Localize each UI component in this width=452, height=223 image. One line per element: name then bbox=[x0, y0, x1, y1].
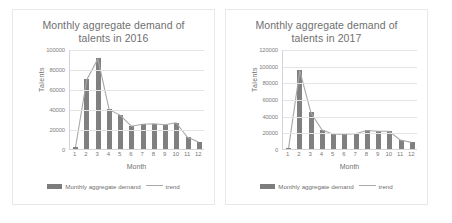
x-tick-label: 9 bbox=[376, 151, 379, 157]
x-tick-label: 3 bbox=[308, 151, 311, 157]
gridline bbox=[70, 110, 204, 111]
legend-bar-label: Monthly aggregate demand bbox=[65, 183, 140, 190]
chart-title-2017: Monthly aggregate demand of talents in 2… bbox=[226, 10, 427, 45]
x-tick-label: 8 bbox=[152, 151, 155, 157]
x-tick-label: 6 bbox=[342, 151, 345, 157]
trend-polyline bbox=[289, 71, 412, 149]
x-tick-label: 12 bbox=[408, 151, 415, 157]
legend-item-line: trend bbox=[146, 183, 180, 190]
y-tick-label: 0 bbox=[275, 147, 278, 153]
plot-canvas bbox=[69, 50, 204, 150]
gridline bbox=[70, 90, 204, 91]
trend-line-series bbox=[70, 50, 204, 149]
chart-panel-2016[interactable]: Monthly aggregate demand of talents in 2… bbox=[12, 9, 215, 205]
x-tick-label: 1 bbox=[286, 151, 289, 157]
x-tick-label: 1 bbox=[73, 151, 76, 157]
chart-sheet: Monthly aggregate demand of talents in 2… bbox=[0, 0, 452, 223]
gridline bbox=[283, 117, 417, 118]
y-tick-label: 80000 bbox=[49, 67, 65, 73]
chart-title-line2: talents in 2016 bbox=[13, 32, 214, 45]
x-axis-label: Month bbox=[69, 163, 204, 170]
chart-title-line1: Monthly aggregate demand of bbox=[13, 19, 214, 32]
x-axis-label: Month bbox=[282, 163, 417, 170]
x-tick-label: 3 bbox=[95, 151, 98, 157]
chart-title-2016: Monthly aggregate demand of talents in 2… bbox=[13, 10, 214, 45]
y-tick-label: 100000 bbox=[259, 64, 278, 70]
y-tick-label: 80000 bbox=[262, 80, 278, 86]
legend-item-bar: Monthly aggregate demand bbox=[47, 183, 140, 190]
plot-area-2016: Talents 020000400006000080000100000 1234… bbox=[13, 50, 216, 156]
legend-line-label: trend bbox=[379, 183, 393, 190]
chart-title-line2: talents in 2017 bbox=[226, 32, 427, 45]
y-axis-ticks: 020000400006000080000100000120000 bbox=[238, 50, 280, 150]
trend-polyline bbox=[76, 59, 199, 147]
y-tick-label: 20000 bbox=[262, 130, 278, 136]
gridline bbox=[283, 100, 417, 101]
chart-title-line1: Monthly aggregate demand of bbox=[226, 19, 427, 32]
x-tick-label: 5 bbox=[118, 151, 121, 157]
gridline bbox=[70, 70, 204, 71]
legend-line-label: trend bbox=[166, 183, 180, 190]
legend-line-swatch-icon bbox=[359, 185, 376, 186]
x-tick-label: 10 bbox=[173, 151, 180, 157]
y-tick-label: 0 bbox=[62, 147, 65, 153]
legend-item-bar: Monthly aggregate demand bbox=[260, 183, 353, 190]
legend-line-swatch-icon bbox=[146, 185, 163, 186]
gridline bbox=[283, 83, 417, 84]
y-tick-label: 60000 bbox=[49, 87, 65, 93]
plot-area-2017: Talents 02000040000600008000010000012000… bbox=[226, 50, 429, 156]
x-tick-label: 12 bbox=[195, 151, 202, 157]
gridline bbox=[70, 130, 204, 131]
y-tick-label: 60000 bbox=[262, 97, 278, 103]
x-axis-ticks: 123456789101112 bbox=[69, 151, 204, 163]
x-tick-label: 7 bbox=[353, 151, 356, 157]
legend-bar-swatch-icon bbox=[47, 184, 62, 189]
x-tick-label: 11 bbox=[184, 151, 190, 157]
chart-legend: Monthly aggregate demand trend bbox=[226, 183, 427, 190]
y-axis-ticks: 020000400006000080000100000 bbox=[25, 50, 67, 150]
x-tick-label: 2 bbox=[84, 151, 87, 157]
gridline bbox=[70, 50, 204, 51]
y-tick-label: 100000 bbox=[46, 47, 65, 53]
legend-bar-label: Monthly aggregate demand bbox=[278, 183, 353, 190]
y-tick-label: 40000 bbox=[49, 107, 65, 113]
x-tick-label: 5 bbox=[331, 151, 334, 157]
gridline bbox=[283, 50, 417, 51]
y-tick-label: 20000 bbox=[49, 127, 65, 133]
x-tick-label: 4 bbox=[320, 151, 323, 157]
x-tick-label: 11 bbox=[397, 151, 403, 157]
x-tick-label: 6 bbox=[129, 151, 132, 157]
legend-item-line: trend bbox=[359, 183, 393, 190]
gridline bbox=[283, 67, 417, 68]
gridline bbox=[283, 133, 417, 134]
x-tick-label: 7 bbox=[140, 151, 143, 157]
x-tick-label: 10 bbox=[386, 151, 393, 157]
chart-legend: Monthly aggregate demand trend bbox=[13, 183, 214, 190]
x-tick-label: 8 bbox=[365, 151, 368, 157]
legend-bar-swatch-icon bbox=[260, 184, 275, 189]
x-tick-label: 9 bbox=[163, 151, 166, 157]
y-tick-label: 120000 bbox=[259, 47, 278, 53]
y-tick-label: 40000 bbox=[262, 114, 278, 120]
chart-panel-2017[interactable]: Monthly aggregate demand of talents in 2… bbox=[225, 9, 428, 205]
plot-canvas bbox=[282, 50, 417, 150]
x-tick-label: 2 bbox=[297, 151, 300, 157]
x-axis-ticks: 123456789101112 bbox=[282, 151, 417, 163]
x-tick-label: 4 bbox=[107, 151, 110, 157]
